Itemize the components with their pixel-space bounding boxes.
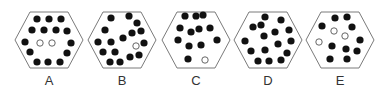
filled-dot	[241, 37, 248, 44]
option-label-e: E	[330, 73, 350, 89]
filled-dot	[249, 23, 256, 30]
filled-dot	[116, 58, 123, 65]
filled-dot	[343, 55, 350, 62]
filled-dot	[111, 48, 118, 55]
filled-dot	[356, 36, 363, 43]
filled-dot	[44, 58, 51, 65]
hollow-dot	[37, 40, 43, 46]
filled-dot	[283, 49, 290, 56]
filled-dot	[94, 38, 101, 45]
filled-dot	[328, 42, 335, 49]
filled-dot	[187, 28, 194, 35]
filled-dot	[57, 15, 64, 22]
filled-dot	[135, 51, 142, 58]
filled-dot	[126, 53, 133, 60]
filled-dot	[197, 41, 204, 48]
option-a-hexagon	[15, 12, 83, 68]
filled-dot	[199, 11, 206, 18]
filled-dot	[63, 49, 70, 56]
option-label-a: A	[39, 73, 59, 89]
filled-dot	[271, 28, 278, 35]
filled-dot	[101, 26, 108, 33]
filled-dot	[21, 38, 28, 45]
option-label-b: B	[112, 73, 132, 89]
filled-dot	[247, 47, 254, 54]
answer-options-figure: A B C D E	[0, 0, 388, 90]
filled-dot	[28, 26, 35, 33]
option-label-c: C	[186, 73, 206, 89]
hollow-dot	[342, 33, 348, 39]
filled-dot	[137, 27, 144, 34]
filled-dot	[192, 12, 199, 19]
filled-dot	[128, 29, 135, 36]
hollow-dot	[133, 43, 139, 49]
filled-dot	[33, 58, 40, 65]
filled-dot	[26, 48, 33, 55]
filled-dot	[287, 37, 294, 44]
filled-dot	[184, 55, 191, 62]
filled-dot	[45, 15, 52, 22]
filled-dot	[106, 58, 113, 65]
filled-dot	[285, 26, 292, 33]
filled-dot	[331, 14, 338, 21]
filled-dot	[176, 24, 183, 31]
filled-dot	[260, 32, 267, 39]
option-label-d: D	[258, 73, 278, 89]
filled-dot	[348, 23, 355, 30]
filled-dot	[133, 19, 140, 26]
filled-dot	[353, 47, 360, 54]
filled-dot	[107, 14, 114, 21]
filled-dot	[56, 58, 63, 65]
filled-dot	[185, 42, 192, 49]
option-e-hexagon	[306, 12, 374, 68]
filled-dot	[257, 21, 264, 28]
filled-dot	[125, 12, 132, 19]
filled-dot	[261, 13, 268, 20]
hollow-dot	[49, 40, 55, 46]
filled-dot	[274, 40, 281, 47]
filled-dot	[265, 57, 272, 64]
filled-dot	[195, 25, 202, 32]
filled-dot	[318, 22, 325, 29]
hollow-dot	[202, 57, 208, 63]
filled-dot	[277, 16, 284, 23]
filled-dot	[52, 26, 59, 33]
option-c-hexagon	[162, 11, 230, 68]
filled-dot	[67, 39, 74, 46]
filled-dot	[254, 57, 261, 64]
filled-dot	[107, 38, 114, 45]
filled-dot	[140, 39, 147, 46]
filled-dot	[33, 15, 40, 22]
filled-dot	[99, 48, 106, 55]
filled-dot	[277, 56, 284, 63]
hollow-dot	[316, 39, 322, 45]
hollow-dot	[331, 28, 337, 34]
filled-dot	[326, 55, 333, 62]
filled-dot	[261, 46, 268, 53]
filled-dot	[40, 26, 47, 33]
filled-dot	[342, 45, 349, 52]
filled-dot	[174, 36, 181, 43]
option-b-hexagon	[88, 12, 156, 68]
filled-dot	[206, 24, 213, 31]
filled-dot	[343, 13, 350, 20]
filled-dot	[213, 36, 220, 43]
filled-dot	[181, 12, 188, 19]
filled-dot	[63, 27, 70, 34]
option-d-hexagon	[234, 12, 302, 68]
filled-dot	[119, 34, 126, 41]
